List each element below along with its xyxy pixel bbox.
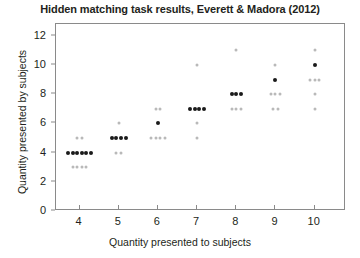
x-tick-mark [235,205,236,210]
x-tick-label: 10 [308,215,320,227]
x-tick-label: 4 [75,215,81,227]
x-tick-mark [274,205,275,210]
x-tick-mark [196,205,197,210]
x-tick-label: 5 [115,215,121,227]
x-tick-mark [314,205,315,210]
x-tick-label: 6 [154,215,160,227]
x-tick-label: 7 [193,215,199,227]
x-tick-mark [157,205,158,210]
x-axis-label: Quantity presented to subjects [0,236,360,248]
x-axis: Quantity presented to subjects 45678910 [0,0,360,258]
x-tick-label: 8 [232,215,238,227]
x-tick-mark [118,205,119,210]
x-tick-mark [79,205,80,210]
chart-figure: Hidden matching task results, Everett & … [0,0,360,258]
x-tick-label: 9 [271,215,277,227]
